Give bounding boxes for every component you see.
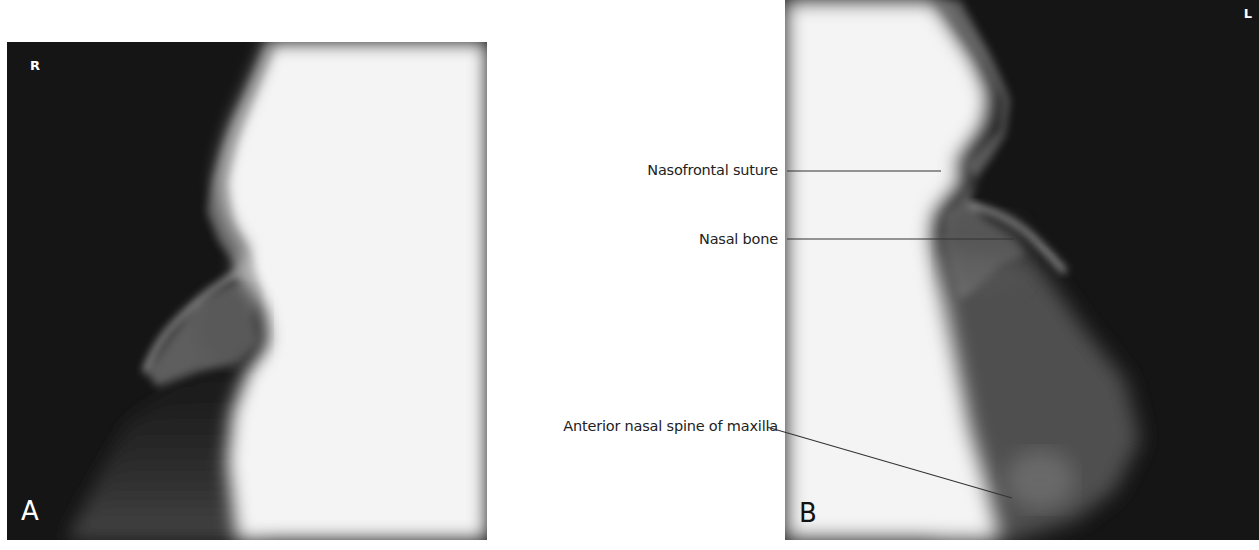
radiograph-image-a bbox=[7, 42, 487, 540]
panel-label-a: A bbox=[21, 496, 39, 526]
panel-label-b: B bbox=[799, 498, 817, 528]
label-anterior-nasal-spine: Anterior nasal spine of maxilla bbox=[563, 418, 778, 434]
radiograph-image-b bbox=[785, 0, 1259, 540]
side-marker-right: R bbox=[30, 58, 40, 73]
label-nasofrontal-suture: Nasofrontal suture bbox=[647, 162, 778, 178]
label-nasal-bone: Nasal bone bbox=[699, 231, 778, 247]
radiograph-panel-b: L B bbox=[785, 0, 1259, 540]
side-marker-left: L bbox=[1244, 6, 1252, 21]
radiograph-panel-a: R A bbox=[7, 42, 487, 540]
